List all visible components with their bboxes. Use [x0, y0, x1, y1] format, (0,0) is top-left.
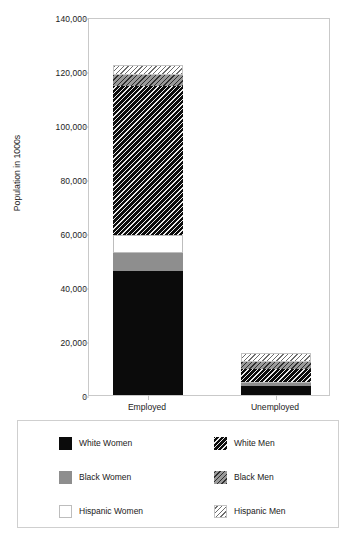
hatch-white-swatch-icon: [214, 505, 227, 518]
y-axis-tick-label: 40,000: [1, 284, 87, 294]
legend-item-label: White Men: [234, 439, 275, 448]
y-axis-tick-mark: [82, 127, 89, 128]
hatch-black-swatch-icon: [214, 437, 227, 450]
y-axis-tick-mark: [82, 73, 89, 74]
bar-segment-white-women[interactable]: [241, 386, 311, 395]
y-axis-tick-mark: [82, 235, 89, 236]
legend-item-label: Hispanic Men: [234, 507, 286, 516]
bar-segment-hispanic-men[interactable]: [113, 65, 183, 75]
bar-segment-hispanic-men[interactable]: [241, 353, 311, 361]
x-axis-tick-mark: [148, 395, 149, 400]
bar-unemployed[interactable]: [241, 17, 311, 395]
legend-item-black-men[interactable]: Black Men: [214, 471, 274, 484]
y-axis-tick-label: 80,000: [1, 176, 87, 186]
bar-segment-white-men[interactable]: [241, 369, 311, 382]
hatch-gray-swatch-icon: [214, 471, 227, 484]
y-axis-tick-mark: [82, 343, 89, 344]
plot-area: 140,000120,000100,00080,00060,00040,0002…: [88, 18, 330, 396]
bar-segment-white-women[interactable]: [113, 271, 183, 395]
legend-item-black-women[interactable]: Black Women: [59, 471, 131, 484]
bar-segment-black-men[interactable]: [241, 362, 311, 369]
y-axis-tick-mark: [82, 181, 89, 182]
y-axis-tick-mark: [82, 19, 89, 20]
y-axis-title: Population in 1000s: [12, 93, 22, 253]
legend-item-label: Black Men: [234, 473, 274, 482]
legend-item-white-women[interactable]: White Women: [59, 437, 132, 450]
legend-item-label: Hispanic Women: [79, 507, 143, 516]
solid-gray-swatch-icon: [59, 471, 72, 484]
bar-segment-black-women[interactable]: [113, 253, 183, 271]
x-axis-label-employed: Employed: [87, 402, 207, 412]
legend-item-white-men[interactable]: White Men: [214, 437, 275, 450]
solid-white-swatch-icon: [59, 505, 72, 518]
bar-segment-hispanic-women[interactable]: [241, 381, 311, 383]
legend-item-hispanic-women[interactable]: Hispanic Women: [59, 505, 143, 518]
x-axis-label-unemployed: Unemployed: [215, 402, 335, 412]
y-axis-tick-mark: [82, 397, 89, 398]
solid-black-swatch-icon: [59, 437, 72, 450]
y-axis-tick-label: 0: [1, 392, 87, 402]
y-axis-tick-label: 20,000: [1, 338, 87, 348]
y-axis-tick-label: 140,000: [1, 14, 87, 24]
legend-item-label: White Women: [79, 439, 132, 448]
chart-legend: White WomenBlack WomenHispanic WomenWhit…: [17, 420, 339, 528]
bar-segment-black-men[interactable]: [113, 75, 183, 86]
y-axis-tick-label: 100,000: [1, 122, 87, 132]
stacked-bar-chart-figure: Population in 1000s 140,000120,000100,00…: [0, 0, 356, 534]
bar-segment-white-men[interactable]: [113, 86, 183, 235]
legend-item-label: Black Women: [79, 473, 131, 482]
y-axis-tick-label: 60,000: [1, 230, 87, 240]
x-axis-tick-mark: [276, 395, 277, 400]
bar-segment-black-women[interactable]: [241, 383, 311, 385]
bar-segment-hispanic-women[interactable]: [113, 235, 183, 253]
bar-employed[interactable]: [113, 17, 183, 395]
legend-item-hispanic-men[interactable]: Hispanic Men: [214, 505, 286, 518]
y-axis-tick-mark: [82, 289, 89, 290]
y-axis-tick-label: 120,000: [1, 68, 87, 78]
